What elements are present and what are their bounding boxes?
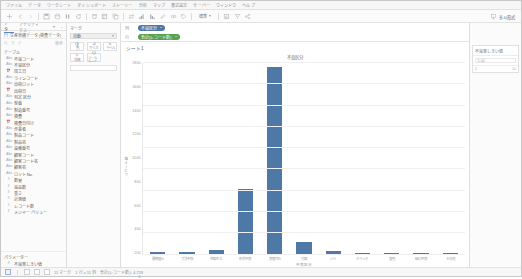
tableau-logo-icon[interactable] [6,13,13,20]
y-axis-tick: 1400 [132,109,140,113]
marks-detail-button[interactable]: 詳細 [70,53,84,62]
save-icon[interactable] [43,13,50,20]
string-field-icon: Abc [6,108,11,112]
share-icon[interactable] [244,13,251,20]
parameter-card-title: 不良率しきい値 [473,46,518,56]
back-icon[interactable] [17,13,24,20]
bar-cell[interactable] [377,63,406,255]
menu-item-server[interactable]: サーバー [193,2,209,8]
bar[interactable] [238,189,253,255]
field-name: ラインコード [14,75,38,81]
y-axis: 020040060080010001200140016001800 [129,53,142,267]
menu-item-help[interactable]: ヘルプ [242,2,254,8]
gridline [143,254,465,255]
bar-cell[interactable] [202,63,231,255]
measure-values-icon: # [6,210,11,214]
labels-icon[interactable] [180,13,187,20]
search-input[interactable]: 検索 [55,40,63,46]
bar-cell[interactable] [143,63,172,255]
bar-cell[interactable] [319,63,348,255]
record-count-icon: # [6,204,11,208]
sort-asc-icon[interactable] [138,13,145,20]
columns-shelf[interactable]: 列 不良区分 [121,23,469,32]
marks-color-button[interactable]: 色 [70,42,84,51]
parameter-icon: # [6,262,11,266]
field-list[interactable]: Abc不良コード Abc不良区分 📅加工日 Abcラインコード Abc出荷ロット… [1,56,66,251]
bar-cell[interactable] [231,63,260,255]
menu-item-data[interactable]: データ [28,2,40,8]
string-field-icon: Abc [6,146,11,150]
datasource-row[interactable]: 生産実績データ (検査データ) [1,31,66,39]
date-field-icon: 📅 [6,70,11,74]
presentation-icon[interactable] [234,13,241,20]
pause-icon[interactable] [64,13,71,20]
bar-cell[interactable] [260,63,289,255]
status-rows-cols: 1 行 x 11 列 [75,269,96,275]
plot-area[interactable] [142,63,465,255]
highlight-icon[interactable] [159,13,166,20]
parameter-value[interactable]: 5.00 [475,58,516,63]
bar[interactable] [267,67,282,254]
x-axis-title: 不良区分 [142,261,465,267]
list-item[interactable]: #メジャー バリュー [1,209,66,215]
rows-shelf[interactable]: 行 合計(レコード数) [121,32,469,41]
menu-item-story[interactable]: ストーリー [112,2,133,8]
fit-dropdown[interactable]: 標準 [196,12,214,20]
string-field-icon: Abc [6,102,11,106]
menu-item-window[interactable]: ウィンドウ [216,2,237,8]
bar-cell[interactable] [348,63,377,255]
marks-tooltip-button[interactable]: ツール ヒント [87,53,101,62]
menu-item-map[interactable]: マップ [153,2,165,8]
new-worksheet-icon[interactable] [101,13,108,20]
y-axis-tick: 1000 [132,156,140,160]
new-worksheet-tab[interactable] [24,269,30,275]
new-dashboard-tab[interactable] [34,269,40,275]
pane-chevron-down-icon[interactable] [53,26,55,28]
marks-drop-target[interactable] [70,65,117,71]
new-story-tab[interactable] [44,269,50,275]
bar-cell[interactable] [172,63,201,255]
group-icon[interactable] [170,13,177,20]
sort-desc-icon[interactable] [149,13,156,20]
field-name: 出荷日 [14,88,26,94]
marks-size-button[interactable]: サイズ [87,42,101,51]
filter-icon[interactable] [11,41,15,45]
bar-cell[interactable] [436,63,465,255]
pill-rows[interactable]: 合計(レコード数) [138,34,180,40]
refresh-icon[interactable] [75,13,82,20]
date-field-icon: 📅 [6,89,11,93]
search-icon[interactable] [4,41,8,45]
gridline [143,168,465,169]
menu-item-dashboard[interactable]: ダッシュボード [77,2,106,8]
chevron-down-icon [175,36,177,37]
new-data-source-icon[interactable] [54,13,61,20]
gridline [143,126,465,127]
menu-item-worksheet[interactable]: ワークシート [47,2,72,8]
menu-item-file[interactable]: ファイル [6,2,22,8]
menu-item-format[interactable]: 書式設定 [171,2,187,8]
sort-fields-icon[interactable] [18,41,22,45]
swap-icon[interactable] [128,13,135,20]
show-me-button[interactable]: 표시形式 [490,13,516,20]
toolbar-divider-2 [86,13,87,20]
field-name: レコード数 [14,203,34,209]
sheet-title[interactable]: シート1 [121,42,469,53]
bar-cell[interactable] [289,63,318,255]
field-name: 不良コード [14,56,34,62]
data-pane: データ アナリティクス ⌄ 生産実績データ (検査データ) [1,23,67,267]
plot-wrapper: 異物混入寸法不良外観キズ形状不良表面汚れ打痕バリクラック変色組付不良その他 不良… [142,53,465,267]
mark-type-dropdown[interactable]: 自動 [70,33,117,39]
chart-title: 不良区分 [121,54,469,60]
fix-axis-icon[interactable] [223,13,230,20]
bar-cell[interactable] [406,63,435,255]
duplicate-icon[interactable] [112,13,119,20]
clear-sheet-icon[interactable] [91,13,98,20]
chevron-down-icon [160,27,162,28]
y-axis-tick: 1800 [132,61,140,65]
forward-icon[interactable] [27,13,34,20]
marks-label-button[interactable]: ラベル [103,42,117,51]
sheet-tab-1[interactable] [5,269,11,275]
pill-columns[interactable]: 不良区分 [138,25,165,31]
menu-item-analysis[interactable]: 分析 [139,2,147,8]
